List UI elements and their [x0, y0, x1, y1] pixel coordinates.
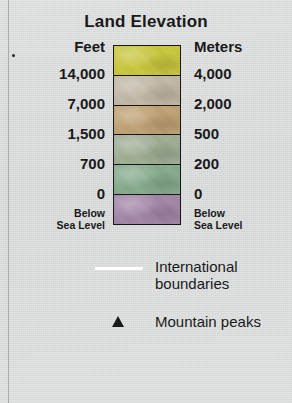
map-frame-marker-dot — [12, 54, 15, 57]
legend-title: Land Elevation — [0, 12, 292, 32]
international-boundaries-line-2: boundaries — [155, 275, 238, 292]
meters-value-2: 2,000 — [194, 95, 232, 112]
ramp-band-1 — [114, 46, 180, 76]
ramp-band-2 — [114, 76, 180, 106]
meters-column-header: Meters — [194, 38, 242, 55]
meters-value-4: 200 — [194, 155, 219, 172]
map-frame-left-rule — [8, 0, 9, 403]
feet-column-header: Feet — [74, 38, 105, 55]
meters-below-line-2: Sea Level — [194, 220, 242, 232]
meters-value-3: 500 — [194, 125, 219, 142]
feet-below-sea-level-caption: Below Sea Level — [57, 208, 105, 231]
feet-below-line-1: Below — [57, 208, 105, 220]
meters-below-line-1: Below — [194, 208, 242, 220]
feet-value-3: 1,500 — [67, 125, 105, 142]
international-boundaries-line-1: International — [155, 258, 238, 275]
feet-below-line-2: Sea Level — [57, 220, 105, 232]
ramp-band-5 — [114, 165, 180, 195]
meters-value-5: 0 — [194, 185, 202, 202]
map-legend-card: Land Elevation Feet Meters Below Sea Lev… — [0, 0, 292, 403]
ramp-band-6 — [114, 195, 180, 224]
meters-value-1: 4,000 — [194, 65, 232, 82]
meters-below-sea-level-caption: Below Sea Level — [194, 208, 242, 231]
feet-value-4: 700 — [80, 155, 105, 172]
mountain-peaks-line-1: Mountain peaks — [155, 313, 261, 330]
feet-value-1: 14,000 — [59, 65, 105, 82]
black-triangle-icon — [112, 316, 124, 327]
ramp-band-3 — [114, 106, 180, 136]
elevation-color-ramp — [113, 45, 181, 225]
ramp-band-4 — [114, 135, 180, 165]
feet-value-5: 0 — [97, 185, 105, 202]
white-line-icon — [95, 267, 143, 270]
international-boundaries-label: International boundaries — [155, 258, 238, 292]
mountain-peaks-label: Mountain peaks — [155, 313, 261, 330]
feet-value-2: 7,000 — [67, 95, 105, 112]
